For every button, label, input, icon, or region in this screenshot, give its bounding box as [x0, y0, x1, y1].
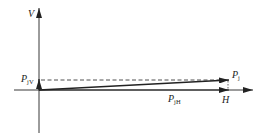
- label-PjV-sub: jV: [26, 78, 34, 85]
- vector-Pj: [39, 80, 229, 90]
- vector-diagram: V PjV Pj PjH H: [0, 0, 266, 139]
- label-PjH-sub: jH: [173, 98, 181, 105]
- label-V: V: [28, 8, 36, 19]
- label-PjH: PjH: [167, 93, 181, 105]
- label-PjV-main: P: [20, 73, 27, 84]
- label-PjV: PjV: [20, 73, 34, 85]
- label-H: H: [221, 94, 230, 105]
- label-Pj-sub: j: [237, 74, 240, 81]
- label-Pj: Pj: [231, 69, 240, 81]
- label-PjH-main: P: [167, 93, 174, 104]
- label-Pj-main: P: [231, 69, 238, 80]
